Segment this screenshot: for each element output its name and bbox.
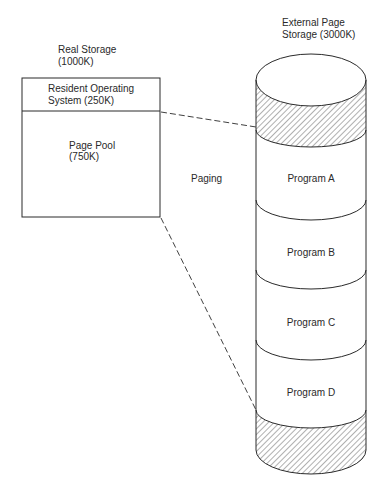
page-pool-label-line2: (750K) [69, 151, 99, 162]
resident-os-label-line2: System (250K) [48, 95, 114, 106]
cylinder-top-ellipse [256, 54, 366, 106]
external-storage-title-line2: Storage (3000K) [282, 29, 355, 40]
program-b-label: Program B [287, 247, 335, 258]
real-storage-title-line2: (1000K) [58, 56, 94, 67]
paging-diagram: Real Storage (1000K) Resident Operating … [0, 0, 383, 487]
section-divider-arc [256, 200, 366, 220]
program-a-label: Program A [287, 173, 335, 184]
cylinder-bottom-hatched-region [256, 410, 366, 474]
program-d-label: Program D [287, 387, 335, 398]
resident-os-label-line1: Resident Operating [48, 83, 134, 94]
real-storage-title-line1: Real Storage [58, 44, 117, 55]
paging-label: Paging [191, 173, 222, 184]
external-storage-title-line1: External Page [282, 17, 345, 28]
paging-connector-top [161, 112, 256, 127]
paging-connector-bottom [161, 218, 256, 410]
section-divider-arc [256, 340, 366, 360]
section-divider-arc [256, 270, 366, 289]
program-c-label: Program C [287, 317, 335, 328]
page-pool-label-line1: Page Pool [69, 140, 115, 151]
